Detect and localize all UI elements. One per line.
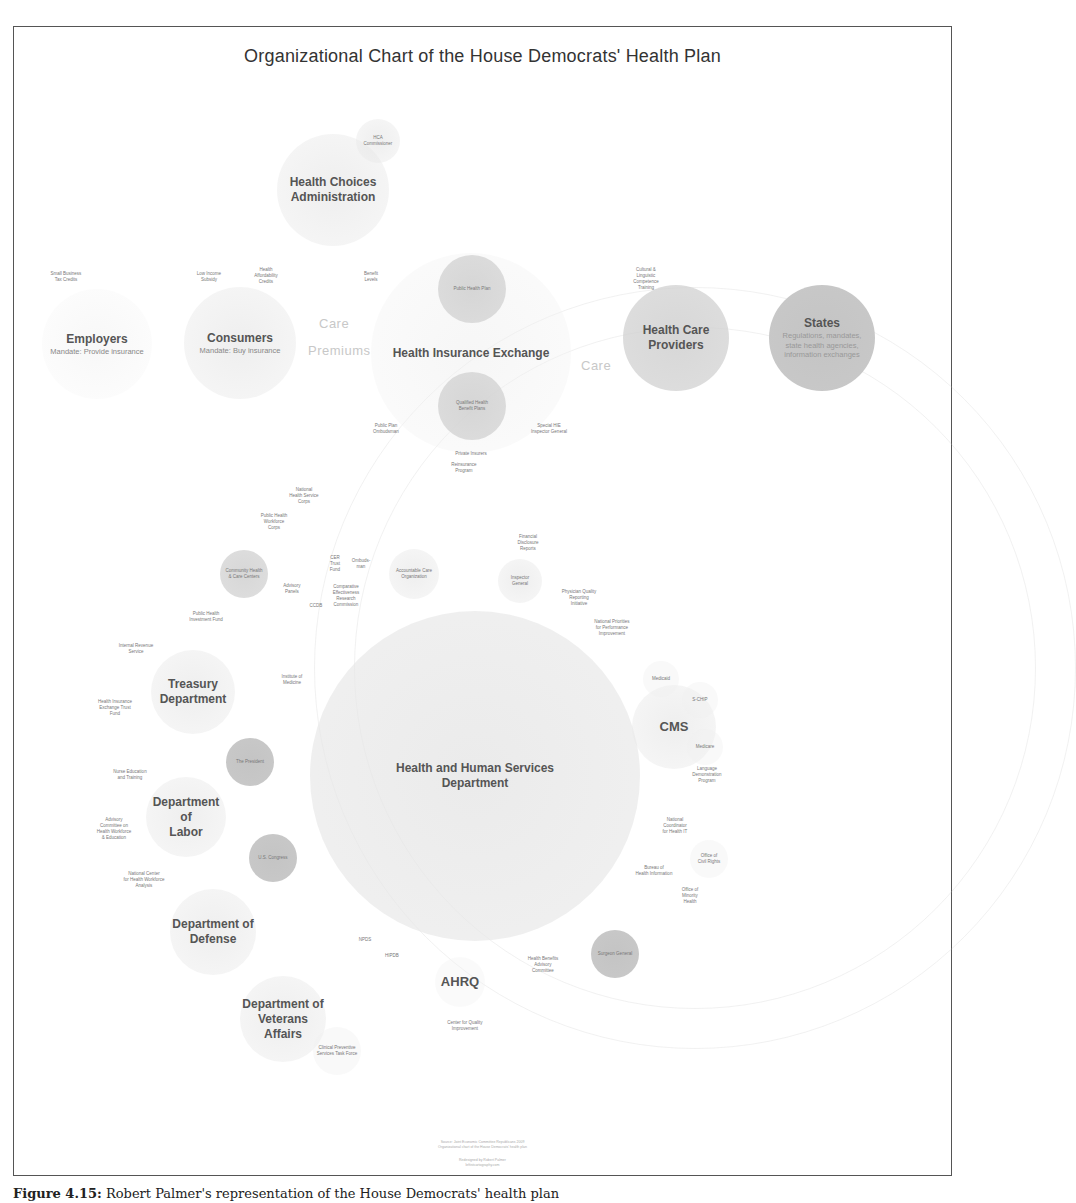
node-label: Health Choices — [290, 175, 377, 190]
node-department-of-labor[interactable]: Department of Labor — [146, 777, 226, 857]
node-label: U.S. Congress — [258, 855, 287, 861]
label-national-priorities: National Priorities for Performance Impr… — [586, 619, 638, 637]
node-department-of-defense[interactable]: Department of Defense — [170, 889, 256, 975]
node-label: Administration — [291, 190, 376, 205]
label-reinsurance-program: Reinsurance Program — [444, 462, 484, 474]
node-community-health-centers[interactable]: Community Health & Care Centers — [220, 550, 268, 598]
label-nurse-education: Nurse Education and Training — [108, 769, 152, 781]
node-label: Consumers — [207, 331, 273, 346]
node-label: States — [804, 316, 840, 331]
node-ahrq[interactable]: AHRQ — [435, 957, 485, 1007]
node-label: Public Health Plan — [454, 286, 491, 292]
label-advisory-panels: Advisory Panels — [278, 583, 306, 595]
node-inspector-general[interactable]: Inspector General — [498, 559, 542, 603]
node-sublabel: Regulations, mandates, — [783, 331, 862, 341]
node-health-care-providers[interactable]: Health Care Providers — [623, 285, 729, 391]
node-label: Qualified Health Benefit Plans — [456, 400, 488, 412]
node-label: Health and Human Services — [396, 761, 554, 776]
label-center-quality-improvement: Center for Quality Improvement — [440, 1020, 490, 1032]
label-public-health-investment-fund: Public Health Investment Fund — [186, 611, 226, 623]
label-cer-commission: Comparative Effectiveness Research Commi… — [326, 584, 366, 608]
node-clinical-preventive-task-force[interactable]: Clinical Preventive Services Task Force — [313, 1027, 361, 1075]
label-private-insurers: Private Insurers — [446, 451, 496, 457]
node-medicaid[interactable]: Medicaid — [643, 661, 679, 697]
node-label: Defense — [190, 932, 237, 947]
node-surgeon-general[interactable]: Surgeon General — [591, 930, 639, 978]
label-npds: NPDS — [355, 937, 375, 943]
node-label: Clinical Preventive Services Task Force — [317, 1045, 357, 1057]
node-label: Labor — [169, 825, 202, 840]
node-states[interactable]: States Regulations, mandates, state heal… — [769, 285, 875, 391]
label-cer-trust-fund: CER Trust Fund — [325, 555, 345, 573]
label-financial-disclosure-reports: Financial Disclosure Reports — [511, 534, 545, 552]
label-benefit-levels: Benefit Levels — [354, 271, 388, 283]
label-public-health-workforce-corps: Public Health Workforce Corps — [254, 513, 294, 531]
label-office-minority-health: Office of Minority Health — [675, 887, 705, 905]
flow-label-care: Care — [581, 358, 611, 373]
label-national-health-service-corps: National Health Service Corps — [284, 487, 324, 505]
node-label: The President — [236, 759, 264, 765]
label-special-ig: Special HIE Inspector General — [524, 423, 574, 435]
node-sublabel: state health agencies, — [786, 341, 859, 351]
node-label: Health Care — [643, 323, 710, 338]
node-public-health-plan[interactable]: Public Health Plan — [438, 255, 506, 323]
node-treasury-department[interactable]: Treasury Department — [151, 650, 235, 734]
label-health-affordability-credits: Health Affordability Credits — [246, 267, 286, 285]
node-label: CMS — [660, 719, 689, 735]
node-label: Affairs — [264, 1027, 302, 1042]
label-cultural-linguistic-training: Cultural & Linguistic Competence Trainin… — [626, 267, 666, 291]
node-label: Department of — [242, 997, 323, 1012]
node-label: Treasury — [168, 677, 218, 692]
label-advisory-committee-workforce: Advisory Committee on Health Workforce &… — [92, 817, 136, 841]
node-label: Department — [160, 692, 227, 707]
node-qualified-health-benefit-plans[interactable]: Qualified Health Benefit Plans — [438, 372, 506, 440]
label-physician-quality-reporting: Physician Quality Reporting Initiative — [554, 589, 604, 607]
node-label: Community Health & Care Centers — [225, 568, 262, 580]
node-label: Health Insurance Exchange — [393, 346, 550, 361]
figure-caption: Figure 4.15: Robert Palmer's representat… — [13, 1186, 559, 1203]
node-label: Providers — [648, 338, 703, 353]
footer-line: Organizational chart of the House Democr… — [14, 1145, 951, 1150]
node-consumers[interactable]: Consumers Mandate: Buy insurance — [184, 287, 296, 399]
node-hca-commissioner[interactable]: HCA Commissioner — [356, 119, 400, 163]
label-ccdb: CCDB — [307, 603, 325, 609]
label-small-business-tax-credits: Small Business Tax Credits — [41, 271, 91, 283]
figure-frame: Organizational Chart of the House Democr… — [13, 26, 952, 1176]
flow-label-premiums: Premiums — [308, 343, 371, 358]
node-label: Medicaid — [652, 676, 670, 682]
footer-line: leftistcartography.com — [14, 1163, 951, 1168]
node-sublabel: Mandate: Provide insurance — [50, 347, 143, 357]
label-ombudsman: Ombuds- man — [347, 558, 375, 570]
label-health-benefits-advisory: Health Benefits Advisory Committee — [523, 956, 563, 974]
node-label: Veterans — [258, 1012, 308, 1027]
node-sublabel: Mandate: Buy insurance — [200, 346, 281, 356]
node-label: Department of — [172, 917, 253, 932]
label-hie-trust-fund: Health Insurance Exchange Trust Fund — [93, 699, 137, 717]
flow-label-care: Care — [319, 316, 349, 331]
footer-source: Source: Joint Economic Committee Republi… — [14, 1140, 951, 1151]
node-label: S-CHIP — [692, 697, 707, 703]
node-employers[interactable]: Employers Mandate: Provide insurance — [42, 289, 152, 399]
node-label: Department — [442, 776, 509, 791]
label-national-coordinator-hit: National Coordinator for Health IT — [655, 817, 695, 835]
node-label: Inspector General — [511, 575, 530, 587]
node-office-civil-rights[interactable]: Office of Civil Rights — [690, 840, 728, 878]
node-the-president[interactable]: The President — [226, 738, 274, 786]
label-hipdb: HIPDB — [382, 953, 402, 959]
node-label: Employers — [66, 332, 127, 347]
node-medicare[interactable]: Medicare — [687, 729, 723, 765]
node-label: AHRQ — [441, 974, 479, 990]
node-hhs-department[interactable]: Health and Human Services Department — [310, 611, 640, 941]
node-label: Accountable Care Organization — [396, 568, 432, 580]
label-low-income-subsidy: Low Income Subsidy — [189, 271, 229, 283]
node-label: Department of — [146, 795, 226, 825]
node-sublabel: information exchanges — [784, 350, 859, 360]
node-label: Commissioner — [364, 141, 393, 147]
node-us-congress[interactable]: U.S. Congress — [249, 834, 297, 882]
label-public-plan-ombudsman: Public Plan Ombudsman — [366, 423, 406, 435]
node-label: Office of Civil Rights — [698, 853, 721, 865]
node-schip[interactable]: S-CHIP — [682, 682, 718, 718]
label-institute-of-medicine: Institute of Medicine — [277, 674, 307, 686]
node-accountable-care-organization[interactable]: Accountable Care Organization — [389, 549, 439, 599]
label-national-center-workforce: National Center for Health Workforce Ana… — [119, 871, 169, 889]
